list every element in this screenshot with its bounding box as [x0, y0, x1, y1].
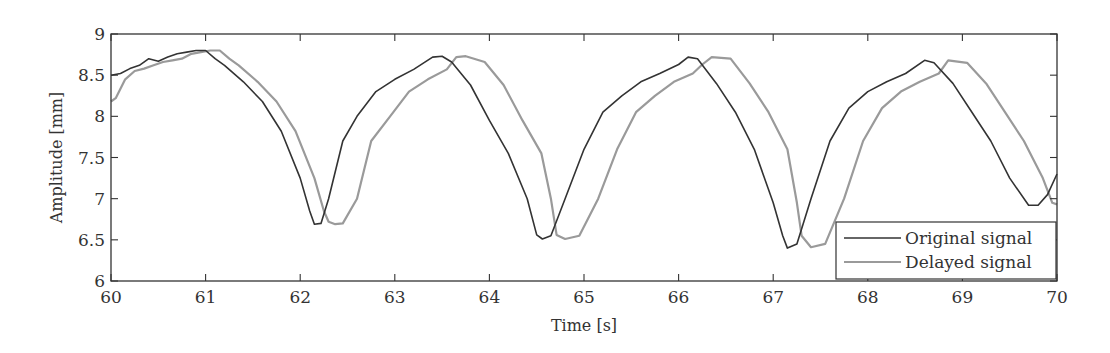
- y-tick-label: 7: [94, 189, 105, 209]
- x-tick-label: 66: [668, 287, 690, 307]
- series-line-original: [111, 51, 1057, 249]
- x-tick-label: 61: [195, 287, 217, 307]
- x-tick-label: 69: [952, 287, 974, 307]
- y-tick-label: 6.5: [78, 230, 105, 250]
- legend-label-original: Original signal: [905, 228, 1032, 248]
- x-tick-label: 68: [857, 287, 879, 307]
- x-tick-label: 70: [1046, 287, 1068, 307]
- x-tick-label: 65: [573, 287, 595, 307]
- line-chart: 6061626364656667686970 66.577.588.59 Tim…: [0, 0, 1110, 353]
- x-tick-label: 63: [384, 287, 406, 307]
- y-tick-label: 8: [94, 106, 105, 126]
- x-tick-label: 64: [479, 287, 501, 307]
- y-tick-label: 6: [94, 271, 105, 291]
- y-tick-label: 9: [94, 24, 105, 44]
- y-axis-tick-labels: 66.577.588.59: [78, 24, 105, 291]
- y-tick-label: 8.5: [78, 65, 105, 85]
- legend-label-delayed: Delayed signal: [905, 252, 1032, 272]
- x-axis-title: Time [s]: [551, 316, 617, 335]
- legend: Original signal Delayed signal: [836, 222, 1056, 279]
- x-tick-label: 67: [762, 287, 784, 307]
- x-tick-label: 62: [289, 287, 311, 307]
- y-axis-title: Amplitude [mm]: [47, 92, 66, 225]
- series-layer: [111, 51, 1057, 249]
- x-axis-tick-labels: 6061626364656667686970: [100, 287, 1068, 307]
- y-tick-label: 7.5: [78, 148, 105, 168]
